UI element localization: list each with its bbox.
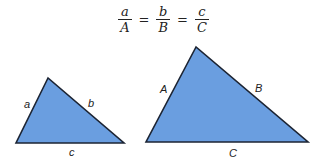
side-label-C: C [229, 147, 237, 159]
side-label-a: a [24, 98, 30, 110]
large-triangle: A B C [146, 47, 308, 159]
similar-triangles-diagram: a b c A B C [0, 0, 327, 162]
large-triangle-shape [146, 47, 308, 142]
side-label-c: c [69, 146, 75, 158]
small-triangle-shape [16, 78, 124, 143]
side-label-A: A [159, 83, 167, 95]
side-label-b: b [88, 97, 94, 109]
side-label-B: B [255, 82, 262, 94]
small-triangle: a b c [16, 78, 124, 158]
